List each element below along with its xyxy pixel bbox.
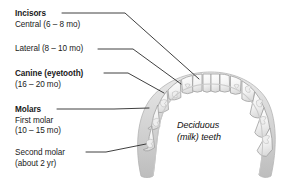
tooth-central-incisor-left <box>203 74 211 92</box>
label-molars-heading: Molars <box>15 105 61 116</box>
label-incisors-detail: Central (6 – 8 mo) <box>15 20 80 31</box>
label-canine: Canine (eyetooth) (16 – 20 mo) <box>15 69 83 90</box>
label-second-molar-detail-1: Second molar <box>15 148 65 159</box>
label-molars: Molars First molar (10 – 15 mo) <box>15 105 61 137</box>
tooth-lateral-incisor-left <box>192 74 202 92</box>
label-canine-heading: Canine (eyetooth) <box>15 69 83 80</box>
label-second-molar-detail-2: (about 2 yr) <box>15 159 65 170</box>
tooth-central-incisor-right <box>211 74 220 92</box>
label-deciduous-line-2: (milk) teeth <box>177 132 221 144</box>
tooth-lateral-incisor-right <box>220 74 230 92</box>
label-canine-detail: (16 – 20 mo) <box>15 80 83 91</box>
tooth-canine-left <box>182 76 193 94</box>
label-deciduous-teeth: Deciduous (milk) teeth <box>177 120 221 143</box>
label-second-molar: Second molar (about 2 yr) <box>15 148 65 169</box>
label-molars-detail-1: First molar <box>15 116 61 127</box>
label-lateral-incisor: Lateral (8 – 10 mo) <box>15 44 83 55</box>
label-molars-detail-2: (10 – 15 mo) <box>15 126 61 137</box>
label-deciduous-line-1: Deciduous <box>177 120 221 132</box>
deciduous-teeth-figure: Incisors Central (6 – 8 mo) Lateral (8 –… <box>0 0 287 185</box>
label-incisors: Incisors Central (6 – 8 mo) <box>15 9 80 30</box>
label-incisors-heading: Incisors <box>15 9 80 20</box>
label-lateral-detail: Lateral (8 – 10 mo) <box>15 44 83 55</box>
